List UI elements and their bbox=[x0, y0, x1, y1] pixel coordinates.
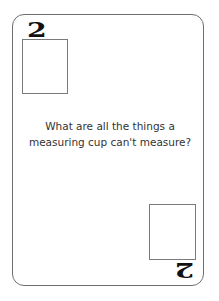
card-prompt: What are all the things a measuring cup … bbox=[20, 118, 200, 150]
card-prompt-line-2: measuring cup can't measure? bbox=[20, 134, 200, 150]
card-rank-top: 2 bbox=[27, 21, 47, 39]
card-image-frame-bottom bbox=[149, 204, 196, 260]
card-image-frame-top bbox=[22, 39, 68, 94]
card-prompt-line-1: What are all the things a bbox=[20, 118, 200, 134]
card-rank-bottom: 2 bbox=[174, 261, 194, 279]
